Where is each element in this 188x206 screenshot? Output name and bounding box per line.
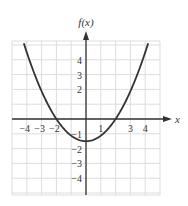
y-axis-label: f(x) [78, 16, 94, 29]
x-tick-label: −3 [34, 123, 45, 134]
x-tick-label: 3 [128, 123, 133, 134]
x-axis-label: x [174, 113, 180, 125]
y-tick-label: −2 [71, 144, 82, 155]
y-tick-label: 3 [77, 70, 82, 81]
y-tick-label: 4 [77, 55, 82, 66]
y-axis-arrow-icon [83, 31, 89, 40]
x-tick-label: −4 [19, 123, 30, 134]
x-tick-label: 1 [98, 123, 103, 134]
y-tick-label: −4 [71, 173, 82, 184]
x-axis-arrow-icon [163, 116, 172, 122]
y-tick-label: −3 [71, 158, 82, 169]
axes [12, 31, 172, 195]
x-tick-label: −2 [49, 123, 60, 134]
x-tick-label: 4 [143, 123, 148, 134]
y-tick-label: 2 [77, 84, 82, 95]
function-graph: −4−3−2134432−1−2−3−4 x f(x) [0, 0, 188, 206]
